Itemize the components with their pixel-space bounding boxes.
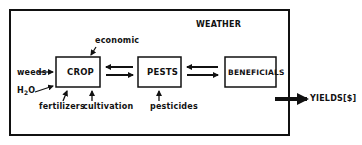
economic-arrow — [91, 47, 96, 55]
fertilizers-arrow — [63, 91, 67, 101]
diagram-canvas — [0, 0, 362, 145]
water-label: H2O — [17, 87, 35, 96]
beneficials-label: BENEFICIALS — [228, 69, 285, 77]
pests-label: PESTS — [147, 68, 178, 77]
water-arrow — [35, 86, 53, 92]
fertilizers-label: fertilizers — [39, 103, 85, 111]
water-h: H — [17, 86, 24, 95]
weather-label: WEATHER — [196, 21, 241, 29]
weeds-label: weeds — [17, 69, 47, 77]
crop-label: CROP — [67, 68, 94, 77]
water-o: O — [28, 86, 35, 95]
yields-label: YIELDS[$] — [310, 95, 356, 103]
cultivation-label: cultivation — [83, 103, 133, 111]
economic-label: economic — [95, 37, 139, 45]
pesticides-label: pesticides — [150, 103, 198, 111]
